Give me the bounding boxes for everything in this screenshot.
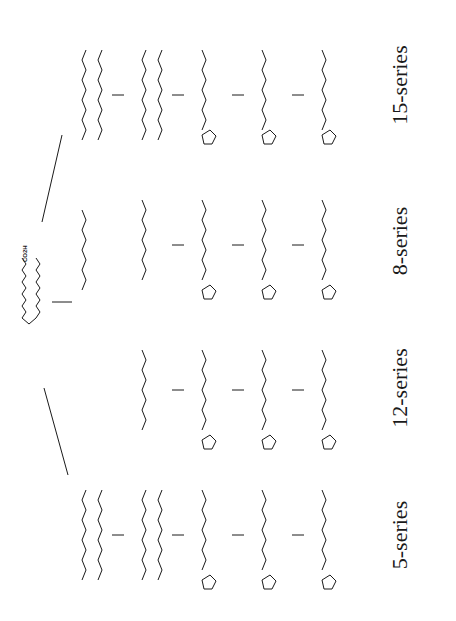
branch-line-5	[44, 388, 68, 475]
reaction-arrows	[112, 95, 304, 535]
structures-5-series	[82, 490, 336, 589]
parent-molecule	[22, 258, 40, 324]
series-label-8: 8-series	[387, 181, 413, 301]
structures-12-series	[142, 350, 336, 449]
series-label-5: 5-series	[387, 475, 413, 595]
structures-15-series	[82, 50, 336, 144]
parent-acid-label: CO2H	[22, 245, 28, 262]
branch-line-15	[42, 135, 62, 222]
structures-8-series	[82, 200, 336, 299]
series-label-12: 12-series	[387, 328, 413, 448]
series-label-15: 15-series	[387, 25, 413, 145]
